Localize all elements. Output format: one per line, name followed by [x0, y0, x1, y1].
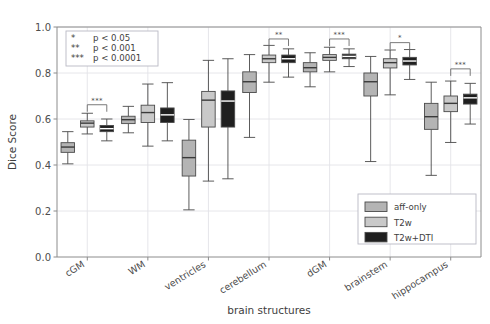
- xtick-label-dGM: dGM: [304, 258, 328, 279]
- ytick-label-3: 0.6: [35, 114, 51, 125]
- xtick-label-brainstem: brainstem: [342, 258, 389, 293]
- chart-figure: ************0.00.20.40.60.81.0Dice Score…: [0, 0, 490, 324]
- box-rect: [364, 73, 378, 96]
- ytick-label-4: 0.8: [35, 68, 51, 79]
- box-rect: [221, 91, 235, 127]
- xtick-label-WM: WM: [126, 258, 147, 277]
- pvalue-legend-marks-2: ***: [71, 53, 85, 63]
- xtick-label-ventricles: ventricles: [162, 258, 207, 292]
- pvalue-legend-text-2: p < 0.0001: [93, 53, 141, 63]
- box-rect: [81, 121, 95, 127]
- ytick-label-0: 0.0: [35, 252, 51, 263]
- significance-label-hippocampus: ***: [455, 61, 467, 69]
- series-legend-label-T2w: T2w: [393, 218, 412, 228]
- series-legend-label-aff-only: aff-only: [394, 202, 427, 212]
- ytick-label-1: 0.2: [35, 206, 51, 217]
- series-legend-swatch-T2w+DTI: [365, 232, 387, 242]
- pvalue-legend-marks-0: *: [71, 33, 76, 43]
- box-rect: [141, 105, 155, 122]
- xtick-label-cGM: cGM: [63, 258, 86, 278]
- box-rect: [463, 94, 477, 104]
- pvalue-legend-text-1: p < 0.001: [93, 43, 136, 53]
- significance-label-cerebellum: **: [275, 31, 283, 39]
- series-legend-swatch-T2w: [365, 217, 387, 227]
- box-rect: [202, 91, 216, 127]
- pvalue-legend-text-0: p < 0.05: [93, 33, 130, 43]
- series-legend-label-T2w+DTI: T2w+DTI: [393, 233, 433, 243]
- ytick-label-5: 1.0: [35, 22, 51, 33]
- x-axis-label: brain structures: [227, 304, 310, 316]
- pvalue-legend-marks-1: **: [71, 43, 80, 53]
- xtick-label-hippocampus: hippocampus: [390, 258, 450, 301]
- ytick-label-2: 0.4: [35, 160, 51, 171]
- series-legend-swatch-aff-only: [365, 202, 387, 212]
- significance-label-brainstem: *: [398, 34, 402, 42]
- y-axis-label: Dice Score: [6, 114, 18, 170]
- xtick-label-cerebellum: cerebellum: [217, 258, 268, 295]
- significance-label-cGM: ***: [91, 97, 103, 105]
- boxplot-svg: ************0.00.20.40.60.81.0Dice Score…: [0, 0, 490, 324]
- significance-label-dGM: ***: [334, 31, 346, 39]
